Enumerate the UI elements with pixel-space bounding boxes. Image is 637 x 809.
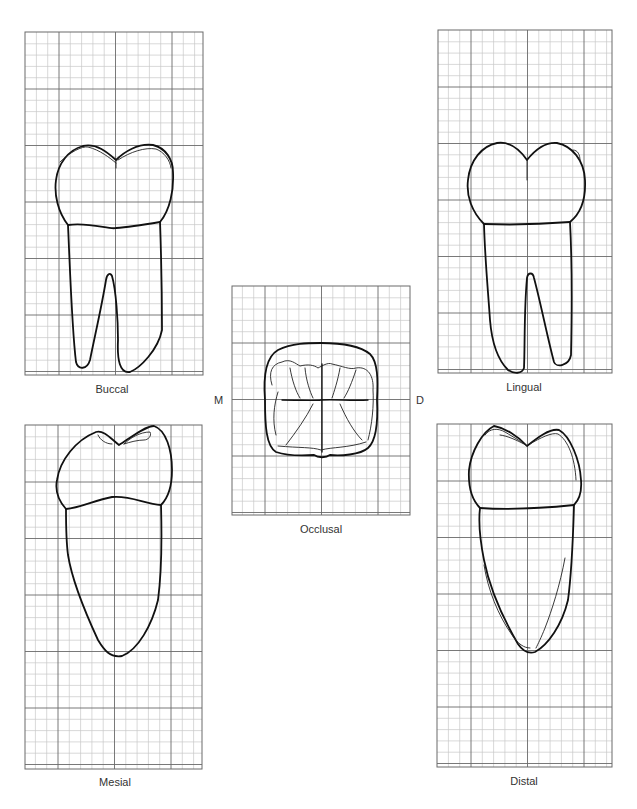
view-label-occlusal: Occlusal <box>300 523 342 535</box>
lingual-tooth-outline <box>468 143 585 373</box>
view-label-mesial: Mesial <box>99 776 131 788</box>
occlusal-tooth-outline <box>264 343 377 457</box>
tooth-diagram-sheet: Buccal Lingual Occlusal Mesial Distal M … <box>0 0 637 809</box>
view-label-distal: Distal <box>510 775 538 787</box>
distal-tooth-outline <box>469 426 581 653</box>
mesial-marker: M <box>214 394 223 406</box>
view-label-buccal: Buccal <box>95 383 128 395</box>
buccal-tooth-outline <box>56 145 174 372</box>
view-label-lingual: Lingual <box>506 381 541 393</box>
mesial-tooth-outline <box>56 426 172 656</box>
distal-marker: D <box>416 394 424 406</box>
tooth-drawings <box>0 0 637 809</box>
